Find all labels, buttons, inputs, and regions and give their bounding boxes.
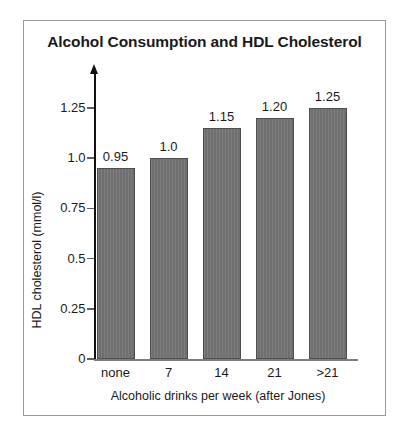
bar: [256, 118, 294, 359]
y-axis-line: [94, 72, 96, 360]
figure: Alcohol Consumption and HDL Cholesterol …: [0, 0, 407, 432]
y-axis-tick: [87, 107, 94, 109]
y-axis-title: HDL cholesterol (mmol/l): [30, 160, 44, 360]
x-axis-title: Alcoholic drinks per week (after Jones): [60, 389, 376, 403]
bar: [150, 158, 188, 359]
y-axis-tick-label: 0.25: [40, 301, 86, 316]
y-axis-tick-label: 1.25: [40, 100, 86, 115]
y-axis-tick: [87, 308, 94, 310]
y-axis-tick-label: 0.75: [40, 200, 86, 215]
bar: [97, 168, 135, 359]
bar: [309, 108, 347, 359]
plot-area: 00.250.50.751.01.25 0.95none1.071.15141.…: [0, 0, 407, 432]
y-axis-tick: [87, 358, 94, 360]
x-axis-line: [94, 359, 358, 361]
x-axis-tick-label: >21: [295, 365, 361, 380]
bar-value-label: 1.25: [298, 89, 358, 104]
y-axis-tick-label: 0.5: [40, 251, 86, 266]
y-axis-tick-label: 0: [40, 351, 86, 366]
bar-value-label: 1.20: [245, 99, 305, 114]
y-axis-tick-label: 1.0: [40, 150, 86, 165]
bar: [203, 128, 241, 359]
y-axis-tick: [87, 258, 94, 260]
bar-value-label: 1.0: [139, 139, 199, 154]
y-axis-tick: [87, 208, 94, 210]
bar-value-label: 0.95: [86, 149, 146, 164]
bar-value-label: 1.15: [192, 109, 252, 124]
